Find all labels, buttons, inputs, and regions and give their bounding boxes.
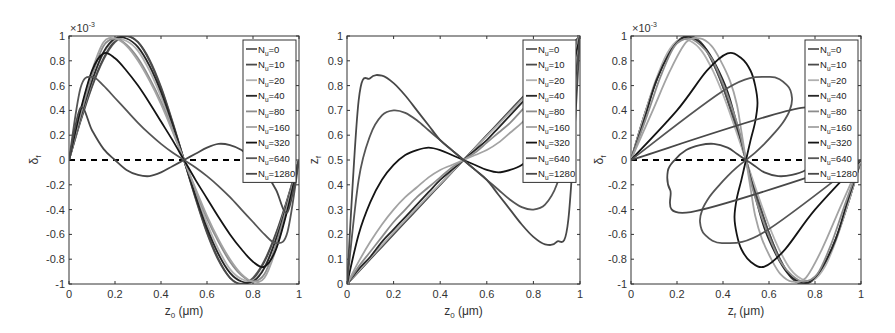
- x-tick-label: 0.8: [526, 288, 541, 300]
- y-tick-label: 0: [59, 154, 65, 166]
- x-tick-label: 0.6: [479, 288, 494, 300]
- y-axis-label: δf: [592, 155, 608, 165]
- plot-panel-delta-vs-zf: 00.20.40.60.81-1-0.8-0.6-0.4-0.200.20.40…: [592, 21, 864, 320]
- y-tick-label: -1: [617, 278, 627, 290]
- x-tick-label: 0.2: [669, 288, 684, 300]
- x-tick-label: 0: [66, 288, 72, 300]
- y-tick-label: 0.4: [50, 104, 65, 116]
- x-tick-label: 0.2: [107, 288, 122, 300]
- x-tick-label: 0.6: [199, 288, 214, 300]
- y-tick-label: 0.8: [328, 80, 343, 92]
- y-tick-label: 0.4: [328, 179, 343, 191]
- x-tick-label: 1: [577, 288, 583, 300]
- y-tick-label: 0.5: [328, 154, 343, 166]
- x-tick-label: 0.4: [715, 288, 730, 300]
- legend: Nu=0Nu=10Nu=20Nu=40Nu=80Nu=160Nu=320Nu=6…: [805, 40, 858, 182]
- x-axis-label: z0 (μm): [165, 304, 204, 320]
- y-tick-label: -0.2: [46, 179, 65, 191]
- y-tick-label: -1: [55, 278, 65, 290]
- x-tick-label: 0.4: [433, 288, 448, 300]
- x-tick-label: 0: [628, 288, 634, 300]
- y-tick-label: -0.8: [46, 253, 65, 265]
- plot-panel-zf-vs-z0: 00.20.40.60.8100.10.20.30.40.50.60.70.80…: [307, 30, 583, 320]
- y-tick-label: -0.2: [608, 179, 627, 191]
- y-tick-label: -0.8: [608, 253, 627, 265]
- y-tick-label: 0.8: [612, 55, 627, 67]
- legend: Nu=0Nu=10Nu=20Nu=40Nu=80Nu=160Nu=320Nu=6…: [523, 40, 576, 182]
- y-tick-label: 0: [621, 154, 627, 166]
- axis-multiplier: ×10-3: [70, 21, 95, 34]
- axis-multiplier: ×10-3: [632, 21, 657, 34]
- x-axis-label: z0 (μm): [444, 304, 483, 320]
- x-tick-label: 0.2: [386, 288, 401, 300]
- y-tick-label: 0.7: [328, 104, 343, 116]
- y-tick-label: 0.2: [612, 129, 627, 141]
- x-tick-label: 1: [858, 288, 864, 300]
- legend: Nu=0Nu=10Nu=20Nu=40Nu=80Nu=160Nu=320Nu=6…: [243, 40, 296, 182]
- y-tick-label: 0.6: [612, 80, 627, 92]
- y-tick-label: 1: [59, 30, 65, 42]
- x-tick-label: 1: [296, 288, 302, 300]
- y-tick-label: 0: [337, 278, 343, 290]
- y-tick-label: 0.4: [612, 104, 627, 116]
- y-tick-label: 0.8: [50, 55, 65, 67]
- plot-panel-delta-vs-z0: 00.20.40.60.81-1-0.8-0.6-0.4-0.200.20.40…: [27, 21, 302, 320]
- y-axis-label: zf: [307, 155, 323, 164]
- y-tick-label: -0.4: [46, 204, 65, 216]
- y-tick-label: -0.6: [608, 228, 627, 240]
- x-tick-label: 0: [344, 288, 350, 300]
- y-tick-label: 0.2: [50, 129, 65, 141]
- y-tick-label: 0.3: [328, 204, 343, 216]
- y-tick-label: 0.9: [328, 55, 343, 67]
- y-tick-label: 1: [337, 30, 343, 42]
- x-tick-label: 0.6: [761, 288, 776, 300]
- y-tick-label: -0.4: [608, 204, 627, 216]
- x-axis-label: zf (μm): [728, 304, 764, 320]
- x-tick-label: 0.8: [245, 288, 260, 300]
- y-tick-label: 1: [621, 30, 627, 42]
- y-axis-label: δf: [27, 155, 43, 165]
- y-tick-label: 0.2: [328, 228, 343, 240]
- x-tick-label: 0.8: [807, 288, 822, 300]
- y-tick-label: -0.6: [46, 228, 65, 240]
- y-tick-label: 0.6: [50, 80, 65, 92]
- y-tick-label: 0.6: [328, 129, 343, 141]
- x-tick-label: 0.4: [153, 288, 168, 300]
- y-tick-label: 0.1: [328, 253, 343, 265]
- figure-canvas: 00.20.40.60.81-1-0.8-0.6-0.4-0.200.20.40…: [0, 0, 895, 333]
